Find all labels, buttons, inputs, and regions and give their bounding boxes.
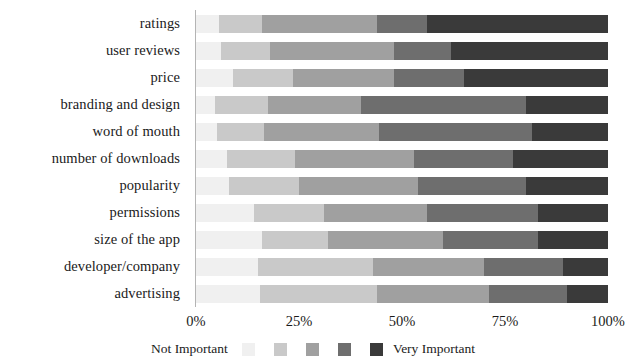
- bar-segment: [262, 231, 328, 249]
- bar-segment: [379, 123, 531, 141]
- bar-segment: [196, 123, 217, 141]
- bar-segment: [196, 15, 219, 33]
- value-tick-label: 75%: [492, 310, 519, 332]
- stacked-bar: [196, 285, 608, 303]
- bar-segment: [328, 231, 443, 249]
- stacked-bar: [196, 177, 608, 195]
- bar-row: [196, 280, 608, 307]
- bar-segment: [219, 15, 262, 33]
- value-tick-label: 50%: [389, 310, 416, 332]
- stacked-bar: [196, 69, 608, 87]
- bar-segment: [196, 258, 258, 276]
- bar-segment: [464, 69, 608, 87]
- bar-segment: [563, 258, 608, 276]
- bar-segment: [196, 150, 227, 168]
- bar-segment: [526, 96, 608, 114]
- bars-container: [196, 10, 608, 307]
- legend-swatch: [370, 343, 383, 356]
- bar-segment: [377, 15, 426, 33]
- bar-segment: [229, 177, 299, 195]
- bar-row: [196, 37, 608, 64]
- bar-segment: [513, 150, 608, 168]
- stacked-bar: [196, 15, 608, 33]
- bar-row: [196, 10, 608, 37]
- bar-segment: [215, 96, 269, 114]
- bar-row: [196, 145, 608, 172]
- bar-segment: [427, 15, 608, 33]
- bar-segment: [196, 177, 229, 195]
- bar-segment: [233, 69, 293, 87]
- bar-row: [196, 64, 608, 91]
- bar-segment: [270, 42, 394, 60]
- category-label: price: [0, 64, 188, 91]
- bar-segment: [221, 42, 270, 60]
- bar-segment: [526, 177, 608, 195]
- bar-row: [196, 253, 608, 280]
- category-label: developer/company: [0, 253, 188, 280]
- category-label: branding and design: [0, 91, 188, 118]
- bar-segment: [532, 123, 608, 141]
- bar-segment: [262, 15, 377, 33]
- value-tick-label: 0%: [186, 310, 205, 332]
- bar-segment: [394, 69, 464, 87]
- bar-segment: [538, 231, 608, 249]
- bar-row: [196, 172, 608, 199]
- value-tick-label: 25%: [286, 310, 313, 332]
- bar-segment: [217, 123, 264, 141]
- legend-very-important-label: Very Important: [393, 341, 475, 357]
- bar-row: [196, 91, 608, 118]
- bar-segment: [196, 96, 215, 114]
- bar-segment: [196, 231, 262, 249]
- bar-segment: [443, 231, 538, 249]
- stacked-bar: [196, 231, 608, 249]
- category-label: ratings: [0, 10, 188, 37]
- bar-segment: [394, 42, 452, 60]
- bar-segment: [196, 204, 254, 222]
- legend-swatch: [338, 343, 351, 356]
- bar-segment: [196, 69, 233, 87]
- legend-not-important-label: Not Important: [151, 341, 228, 357]
- legend-swatch: [242, 343, 255, 356]
- category-label: word of mouth: [0, 118, 188, 145]
- stacked-bar: [196, 150, 608, 168]
- bar-segment: [567, 285, 608, 303]
- bar-row: [196, 226, 608, 253]
- bar-segment: [538, 204, 608, 222]
- bar-segment: [227, 150, 295, 168]
- bar-segment: [264, 123, 379, 141]
- stacked-bar: [196, 258, 608, 276]
- category-label: permissions: [0, 199, 188, 226]
- plot-area: [196, 10, 608, 307]
- category-label: popularity: [0, 172, 188, 199]
- category-label: advertising: [0, 280, 188, 307]
- category-label: user reviews: [0, 37, 188, 64]
- bar-segment: [451, 42, 608, 60]
- bar-segment: [427, 204, 538, 222]
- bar-segment: [418, 177, 525, 195]
- bar-segment: [260, 285, 377, 303]
- bar-segment: [414, 150, 513, 168]
- stacked-bar: [196, 42, 608, 60]
- bar-segment: [484, 258, 562, 276]
- bar-segment: [361, 96, 526, 114]
- bar-segment: [258, 258, 373, 276]
- bar-row: [196, 118, 608, 145]
- value-tick-label: 100%: [591, 310, 625, 332]
- legend-swatch: [306, 343, 319, 356]
- bar-segment: [377, 285, 488, 303]
- bar-segment: [324, 204, 427, 222]
- bar-segment: [196, 285, 260, 303]
- stacked-bar-chart: ratingsuser reviewspricebranding and des…: [0, 0, 626, 363]
- bar-segment: [268, 96, 361, 114]
- value-axis-labels: 0%25%50%75%100%: [196, 310, 608, 332]
- bar-segment: [196, 42, 221, 60]
- bar-row: [196, 199, 608, 226]
- bar-segment: [254, 204, 324, 222]
- bar-segment: [489, 285, 567, 303]
- stacked-bar: [196, 123, 608, 141]
- bar-segment: [373, 258, 484, 276]
- chart-legend: Not Important Very Important: [0, 338, 626, 360]
- bar-segment: [293, 69, 394, 87]
- bar-segment: [295, 150, 414, 168]
- legend-swatch: [274, 343, 287, 356]
